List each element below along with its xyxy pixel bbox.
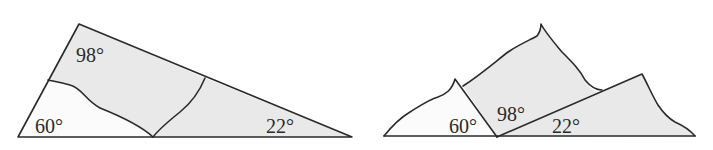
angle-sum-diagram: 98° 60° 22° 60° 98° 22° bbox=[0, 0, 713, 150]
left-label-98: 98° bbox=[76, 44, 104, 66]
left-label-22: 22° bbox=[266, 115, 294, 137]
left-label-60: 60° bbox=[35, 115, 63, 137]
left-triangle: 98° 60° 22° bbox=[18, 24, 352, 137]
right-label-60: 60° bbox=[449, 115, 477, 137]
right-arrangement: 60° 98° 22° bbox=[384, 24, 695, 137]
right-label-98: 98° bbox=[497, 103, 525, 125]
right-label-22: 22° bbox=[552, 115, 580, 137]
